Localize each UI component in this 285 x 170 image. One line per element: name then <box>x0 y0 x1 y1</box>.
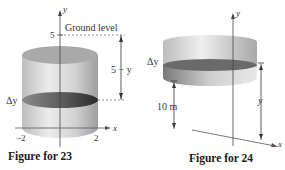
tick-5-label: 5 <box>50 30 55 40</box>
x-tick-right: 2 <box>94 133 99 143</box>
delta-y-label: Δy <box>147 56 158 67</box>
height-label: 10 m <box>157 101 178 112</box>
figure-23-caption: Figure for 23 <box>8 150 72 162</box>
figure-24: y Δy 10 m y x Figure for 24 <box>145 0 285 170</box>
x-axis-arrow-icon <box>105 126 111 130</box>
ground-level-label: Ground level <box>65 22 118 33</box>
figure-23-diagram: y 5 Ground level 5 − y Δy x −2 2 <box>0 0 145 150</box>
y-axis-label: y <box>62 4 67 14</box>
figure-23: y 5 Ground level 5 − y Δy x −2 2 Figure … <box>0 0 145 170</box>
figure-24-diagram: y Δy 10 m y x <box>145 0 285 150</box>
x-axis-label: x <box>112 123 117 133</box>
delta-y-label: Δy <box>6 95 17 106</box>
slice-disk <box>163 59 257 71</box>
x-axis-label: x <box>277 139 282 149</box>
distance-label: y <box>257 95 263 106</box>
x-tick-left: −2 <box>16 133 26 143</box>
y-axis-arrow-icon <box>58 10 62 16</box>
y-axis-arrow-icon <box>231 13 235 19</box>
figure-24-caption: Figure for 24 <box>189 152 253 164</box>
x-axis-arrow-icon <box>271 143 278 147</box>
distance-label: 5 − y <box>111 64 132 75</box>
y-axis-label: y <box>235 8 240 18</box>
